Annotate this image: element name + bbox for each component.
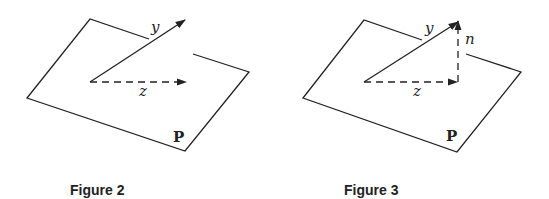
plane-p-outline [303, 20, 521, 152]
figure-2: y z P Figure 2 [27, 18, 249, 198]
vector-y-arrow [364, 22, 458, 82]
plane-p-outline [27, 19, 249, 151]
label-n: n [465, 30, 475, 48]
figure-caption: Figure 3 [344, 182, 399, 198]
label-z: z [138, 82, 147, 100]
diagram-canvas: y z P Figure 2 y z n P Figure 3 [0, 0, 549, 199]
label-y: y [424, 19, 434, 37]
figure-caption: Figure 2 [70, 182, 125, 198]
label-plane-p: P [446, 127, 457, 145]
vector-y-arrow [90, 20, 185, 82]
label-y: y [150, 18, 160, 36]
label-z: z [412, 82, 421, 100]
figure-3: y z n P Figure 3 [303, 19, 521, 198]
label-plane-p: P [173, 128, 184, 146]
